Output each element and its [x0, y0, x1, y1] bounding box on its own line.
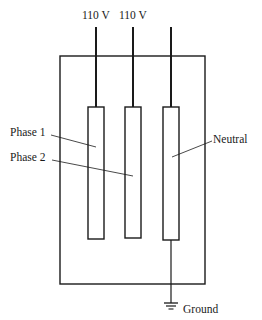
phase1-label: Phase 1 — [10, 126, 46, 138]
ground-icon — [164, 303, 178, 309]
phase2-leader — [52, 160, 133, 176]
ground-label: Ground — [183, 303, 218, 315]
phase2-bar — [125, 107, 141, 238]
supply-label-1: 110 V — [82, 9, 110, 21]
phase2-label: Phase 2 — [10, 151, 46, 163]
neutral-leader — [172, 141, 212, 157]
wiring-diagram: 110 V 110 V Ground Phase 1 Phase 2 Neutr… — [0, 0, 262, 320]
phase1-bar — [88, 107, 104, 239]
phase1-leader — [51, 135, 96, 147]
neutral-label: Neutral — [213, 133, 247, 145]
neutral-bar — [163, 107, 179, 240]
supply-label-2: 110 V — [119, 9, 147, 21]
